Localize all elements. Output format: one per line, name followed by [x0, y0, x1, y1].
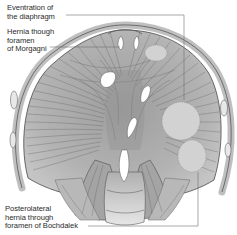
rib-nodule: [11, 91, 18, 109]
eventration-area: [162, 102, 200, 140]
rib-nodule: [10, 132, 16, 148]
label-eventration: Eventration of the diaphragm: [7, 4, 55, 21]
hernia-area-morgagni: [145, 45, 167, 61]
label-bochdalek-hernia: Posterolateral hernia through foramen of…: [5, 205, 78, 231]
rib-nodule: [221, 100, 228, 116]
label-morgagni-hernia: Hernia though foramen of Morgagni: [7, 28, 54, 54]
hernia-area-bochdalek: [178, 140, 206, 172]
rib-nodule: [225, 143, 231, 157]
